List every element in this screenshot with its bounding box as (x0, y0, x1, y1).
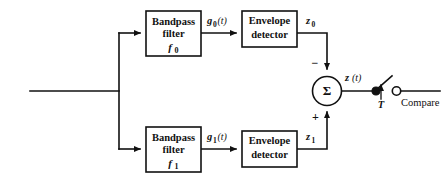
envelope-detector-0-line2: detector (251, 29, 288, 40)
signal-zt-arg: (t) (352, 72, 362, 84)
bandpass-filter-0-line2: filter (162, 28, 184, 39)
summer-plus-sign: + (312, 110, 319, 124)
signal-z0-sub: 0 (312, 20, 316, 29)
sampler-label: T (378, 99, 385, 110)
signal-z0-base: z (305, 15, 311, 26)
fsk-receiver-diagram: Bandpass filter f 0 Envelope detector Ba… (0, 0, 448, 182)
signal-g1-sub: 1 (213, 136, 217, 145)
signal-g0-sub: 0 (213, 20, 217, 29)
signal-z1-sub: 1 (312, 136, 316, 145)
switch-arm (377, 76, 392, 89)
signal-zt-base: z (344, 72, 350, 83)
signal-g1-base: g (206, 131, 212, 142)
diagram-canvas: Bandpass filter f 0 Envelope detector Ba… (0, 0, 448, 182)
envelope-detector-1-line1: Envelope (249, 135, 291, 146)
switch-open-contact (392, 87, 400, 95)
summer-minus-sign: − (312, 56, 319, 70)
signal-g0-arg: (t) (218, 15, 228, 27)
envelope-detector-1-line2: detector (251, 149, 288, 160)
switch-pivot-contact (372, 87, 380, 95)
bandpass-filter-1-freq-sub: 1 (175, 162, 179, 171)
bandpass-filter-0-freq-sub: 0 (175, 46, 179, 55)
compare-label: Compare (401, 97, 440, 108)
signal-g0-base: g (206, 15, 212, 26)
summing-junction-sigma: Σ (323, 83, 332, 98)
signal-g1-arg: (t) (218, 131, 228, 143)
signal-z1-base: z (305, 131, 311, 142)
bandpass-filter-1-line1: Bandpass (152, 132, 195, 143)
bandpass-filter-0-line1: Bandpass (152, 16, 195, 27)
envelope-detector-0-line1: Envelope (249, 15, 291, 26)
bandpass-filter-1-line2: filter (162, 144, 184, 155)
